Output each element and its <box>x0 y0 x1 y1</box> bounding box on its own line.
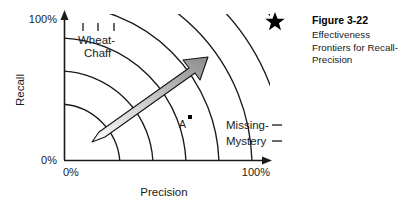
y-axis-top-tick-label: 100% <box>29 13 57 25</box>
y-axis-title: Recall <box>14 74 26 106</box>
point-a-label: A <box>179 118 186 130</box>
missing-mystery-leader-lines <box>272 125 282 141</box>
frontier-arc <box>0 0 252 207</box>
recall-precision-chart: A Wheat- Chaff Missing- Mystery 100% 0% … <box>0 0 290 207</box>
y-axis-bottom-tick-label: 0% <box>41 154 57 166</box>
ideal-point-star-icon <box>265 12 285 30</box>
x-axis-arrowhead-icon <box>262 157 272 165</box>
x-axis-title: Precision <box>140 186 187 198</box>
wheat-chaff-label-line1: Wheat- <box>78 34 115 46</box>
figure-caption-title: Figure 3-22 <box>312 13 408 27</box>
x-axis-right-tick-label: 100% <box>242 166 270 178</box>
missing-mystery-label-line2: Mystery <box>226 135 267 147</box>
x-axis-left-tick-label: 0% <box>63 166 79 178</box>
arrow-body <box>92 57 208 142</box>
figure-caption: Figure 3-22 Effectiveness Frontiers for … <box>312 13 408 67</box>
frontier-arc <box>0 104 120 207</box>
wheat-chaff-tick-marks <box>83 23 114 31</box>
figure-caption-body: Effectiveness Frontiers for Recall-Preci… <box>312 29 408 67</box>
point-a-marker <box>188 115 192 119</box>
improvement-arrow <box>92 57 208 142</box>
wheat-chaff-label-line2: Chaff <box>84 47 112 59</box>
frontier-arc <box>0 38 186 207</box>
y-axis-arrowhead-icon <box>61 10 69 20</box>
figure-container: A Wheat- Chaff Missing- Mystery 100% 0% … <box>0 0 410 207</box>
missing-mystery-label-line1: Missing- <box>226 119 269 131</box>
